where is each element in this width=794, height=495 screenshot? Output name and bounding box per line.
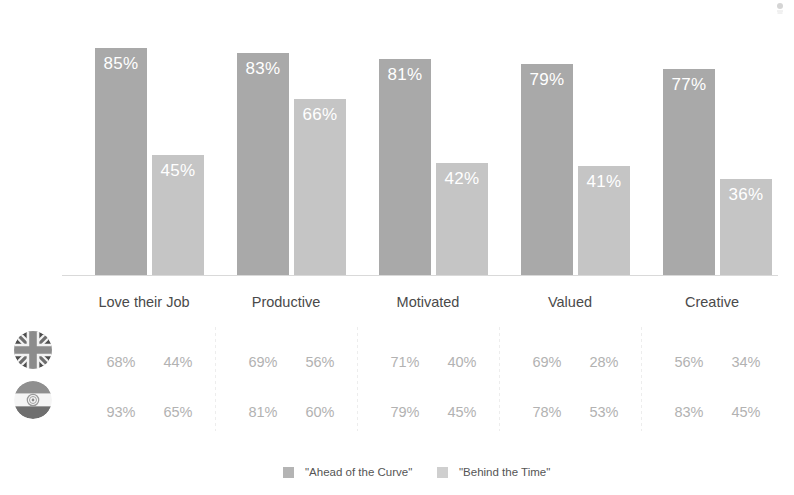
- category-label: Creative: [641, 295, 783, 311]
- bar[interactable]: 81%: [379, 59, 431, 275]
- x-axis-line: [62, 275, 778, 276]
- grouped-bar-chart: 85%45%83%66%81%42%79%41%77%36% Love thei…: [0, 0, 794, 495]
- bar-value-label: 85%: [95, 55, 147, 72]
- bar-value-label: 45%: [152, 162, 204, 179]
- legend-swatch-dark-icon: [283, 467, 294, 478]
- table-cell: 93%: [95, 405, 147, 420]
- table-cell: 44%: [152, 355, 204, 370]
- bar-value-label: 77%: [663, 76, 715, 93]
- bar-value-label: 42%: [436, 170, 488, 187]
- table-cell: 53%: [578, 405, 630, 420]
- legend-label-behind-the-time: "Behind the Time": [459, 466, 550, 478]
- table-cell: 28%: [578, 355, 630, 370]
- table-cell: 69%: [237, 355, 289, 370]
- uk-flag-icon: [14, 331, 52, 369]
- table-cell: 71%: [379, 355, 431, 370]
- table-cell: 79%: [379, 405, 431, 420]
- table-cell: 60%: [294, 405, 346, 420]
- india-flag-icon: [14, 381, 52, 419]
- table-cell: 69%: [521, 355, 573, 370]
- table-cell: 56%: [663, 355, 715, 370]
- bar-value-label: 83%: [237, 60, 289, 77]
- bar[interactable]: 85%: [95, 48, 147, 275]
- table-cell: 65%: [152, 405, 204, 420]
- legend-item-ahead-of-the-curve[interactable]: "Ahead of the Curve": [283, 462, 412, 482]
- table-cell: 34%: [720, 355, 772, 370]
- bar[interactable]: 42%: [436, 163, 488, 275]
- table-cell: 45%: [720, 405, 772, 420]
- category-label: Productive: [215, 295, 357, 311]
- bar[interactable]: 41%: [578, 166, 630, 275]
- bar[interactable]: 36%: [720, 179, 772, 275]
- category-label: Valued: [499, 295, 641, 311]
- table-cell: 45%: [436, 405, 488, 420]
- legend-swatch-light-icon: [437, 467, 448, 478]
- table-cell: 78%: [521, 405, 573, 420]
- bar-value-label: 79%: [521, 71, 573, 88]
- plot-area: 85%45%83%66%81%42%79%41%77%36%: [0, 0, 794, 276]
- table-cell: 83%: [663, 405, 715, 420]
- legend-item-behind-the-time[interactable]: "Behind the Time": [437, 462, 550, 482]
- table-cell: 40%: [436, 355, 488, 370]
- bar-value-label: 36%: [720, 186, 772, 203]
- bar[interactable]: 83%: [237, 53, 289, 275]
- table-cell: 81%: [237, 405, 289, 420]
- category-label: Love their Job: [73, 295, 215, 311]
- bar-value-label: 81%: [379, 66, 431, 83]
- bar[interactable]: 77%: [663, 69, 715, 275]
- bar[interactable]: 66%: [294, 99, 346, 275]
- bar-value-label: 66%: [294, 106, 346, 123]
- table-cell: 68%: [95, 355, 147, 370]
- category-label: Motivated: [357, 295, 499, 311]
- legend-label-ahead-of-the-curve: "Ahead of the Curve": [305, 466, 412, 478]
- column-separator: [357, 327, 358, 431]
- column-separator: [499, 327, 500, 431]
- table-cell: 56%: [294, 355, 346, 370]
- country-data-table: 68%44%93%65%69%56%81%60%71%40%79%45%69%2…: [0, 325, 794, 435]
- bar-value-label: 41%: [578, 173, 630, 190]
- column-separator: [215, 327, 216, 431]
- bar[interactable]: 45%: [152, 155, 204, 275]
- column-separator: [641, 327, 642, 431]
- chart-legend: "Ahead of the Curve" "Behind the Time": [0, 462, 794, 492]
- bar[interactable]: 79%: [521, 64, 573, 275]
